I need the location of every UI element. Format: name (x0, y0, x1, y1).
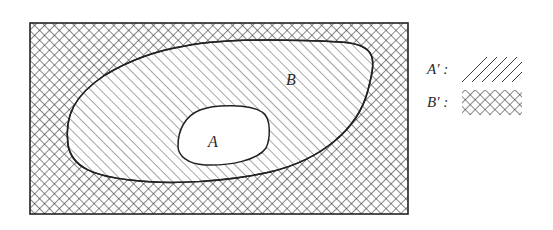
diagonal-hatch-swatch-icon (462, 57, 522, 82)
set-a-region (178, 106, 269, 165)
cross-hatch-swatch-icon (462, 90, 522, 115)
legend: A′ : B′ : (426, 57, 522, 115)
set-b-label: B (286, 71, 296, 88)
legend-item-a-prime: A′ : (426, 57, 522, 82)
set-a-label: A (207, 133, 218, 150)
diagram-canvas: A B A′ : B′ : (0, 0, 553, 230)
legend-label-b-prime: B′ : (427, 94, 448, 110)
legend-label-a-prime: A′ : (426, 61, 448, 77)
legend-item-b-prime: B′ : (427, 90, 522, 115)
venn-diagram: A B A′ : B′ : (0, 0, 553, 230)
